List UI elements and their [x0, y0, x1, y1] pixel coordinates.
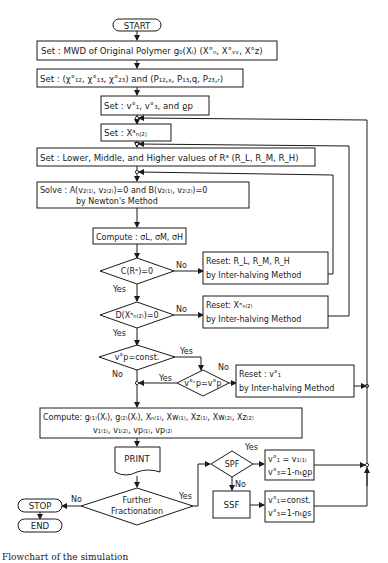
further-line1: Further [123, 496, 153, 505]
compute-line2: v₁₍₁₎, v₁₍₂₎, vp₍₁₎, vp₍₂₎ [93, 426, 172, 435]
d-xn-no: No [176, 305, 187, 314]
further-no: No [71, 495, 82, 504]
flowchart: START Set : MWD of Original Polymer g₀(X… [0, 0, 388, 563]
decision-further-fractionation: Further Fractionation No Yes [62, 464, 210, 525]
vp-const-no: No [112, 370, 123, 379]
vp-oc-no: No [218, 363, 229, 372]
compute-results-box: Compute: g₍₁₎(Xᵢ), g₍₂₎(Xᵢ), Xₙ₍₁₎, Xw₍₁… [40, 408, 302, 438]
end-label: END [31, 521, 50, 531]
further-line2: Fractionation [111, 507, 163, 516]
set-r-box: Set : Lower, Middle, and Higher values o… [37, 148, 315, 166]
d-xn-yes: Yes [112, 329, 126, 338]
reset-r-box: Reset: R_L, R_M, R_H by Inter-halving Me… [203, 252, 328, 284]
set-xn-box: Set : Xᵃₙ₍₂₎ [101, 124, 171, 141]
print-box: PRINT [115, 447, 160, 475]
reset-xn-line1: Reset: Xᵃₙ₍₂₎ [206, 301, 253, 310]
set-r-label: Set : Lower, Middle, and Higher values o… [40, 153, 299, 163]
spf-no: No [235, 480, 246, 489]
spf-result-box: v°₁ = v₁₍₁₎ v°₃=1-nₜϱp [265, 450, 314, 480]
set-mwd-box: Set : MWD of Original Polymer g₀(Xᵢ) (X°… [37, 41, 277, 60]
ssf-result-box: v°₁=const. v°₃=1-nₜϱs [265, 491, 314, 522]
junction-solve [135, 170, 138, 173]
reset-v1-line2: by Inter-halving Method [239, 384, 334, 393]
stop-terminal: STOP [18, 499, 62, 512]
end-terminal: END [18, 519, 62, 532]
junction-r [135, 142, 138, 145]
junction-xn [135, 116, 138, 119]
reset-r-line2: by Inter-halving Method [206, 271, 301, 280]
spf-line1: v°₁ = v₁₍₁₎ [268, 455, 307, 464]
c-ra-yes: Yes [112, 285, 126, 294]
ssf-label: SSF [224, 500, 240, 510]
junction-compute [135, 381, 138, 384]
figure-caption: Flowchart of the simulation [2, 552, 128, 562]
start-label: START [124, 21, 151, 31]
decision-spf: SPF Yes No [211, 443, 264, 490]
further-yes: Yes [178, 492, 192, 501]
solve-line2: by Newton's Method [76, 197, 158, 206]
vp-const-yes: Yes [179, 347, 193, 356]
decision-c-ra: C(Rᵃ)=0 No Yes [100, 258, 203, 294]
set-xn-label: Set : Xᵃₙ₍₂₎ [104, 128, 147, 138]
set-v-label: Set : v°₁, v°₃, and ϱp [104, 101, 193, 111]
start-terminal: START [113, 19, 161, 31]
spf-yes: Yes [244, 443, 258, 452]
c-ra-label: C(Rᵃ)=0 [121, 267, 153, 276]
reset-r-line1: Reset: R_L, R_M, R_H [206, 257, 290, 266]
set-mwd-label: Set : MWD of Original Polymer g₀(Xᵢ) (X°… [41, 46, 263, 56]
reset-xn-line2: by Inter-halving Method [206, 315, 301, 324]
reset-xn-box: Reset: Xᵃₙ₍₂₎ by Inter-halving Method [203, 296, 328, 328]
decision-vp-oc: v°ᶜp=v°p Yes No [139, 363, 236, 396]
d-xn-label: D(Xᵃₙ₍₂₎)=0 [115, 311, 158, 320]
ssf-line1: v°₁=const. [268, 496, 311, 505]
solve-line1: Solve : A(v₂₍₁₎, v₂₍₂₎)=0 and B(v₂₍₁₎, v… [40, 186, 207, 195]
set-chi-label: Set : (χ°₁₂, χ°₁₃, χ°₂₃) and (P₁₂,ₛ, P₁₃… [40, 74, 223, 84]
solve-box: Solve : A(v₂₍₁₎, v₂₍₂₎)=0 and B(v₂₍₁₎, v… [37, 182, 249, 208]
vp-const-label: v°p=const. [115, 353, 160, 362]
set-v-box: Set : v°₁, v°₃, and ϱp [101, 96, 209, 115]
spf-label: SPF [225, 460, 240, 469]
compute-line1: Compute: g₍₁₎(Xᵢ), g₍₂₎(Xᵢ), Xₙ₍₁₎, Xw₍₁… [43, 413, 254, 422]
decision-vp-const: v°p=const. Yes No [99, 345, 201, 379]
compute-sigma-box: Compute : σL, σM, σH [93, 228, 186, 244]
vp-oc-label: v°ᶜp=v°p [184, 379, 221, 388]
junction-spf [365, 463, 368, 466]
ssf-box: SSF [213, 491, 264, 518]
set-chi-box: Set : (χ°₁₂, χ°₁₃, χ°₂₃) and (P₁₂,ₛ, P₁₃… [37, 69, 243, 87]
compute-sigma-label: Compute : σL, σM, σH [96, 233, 183, 242]
vp-oc-yes: Yes [158, 374, 172, 383]
stop-label: STOP [29, 501, 52, 511]
reset-v1-line1: Reset : v°₁ [239, 370, 281, 379]
ssf-line2: v°₃=1-nₜϱs [268, 509, 311, 518]
c-ra-no: No [176, 261, 187, 270]
decision-d-xn: D(Xᵃₙ₍₂₎)=0 No Yes [100, 302, 203, 338]
spf-line2: v°₃=1-nₜϱp [268, 468, 312, 477]
print-label: PRINT [124, 454, 150, 464]
reset-v1-box: Reset : v°₁ by Inter-halving Method [236, 365, 354, 397]
